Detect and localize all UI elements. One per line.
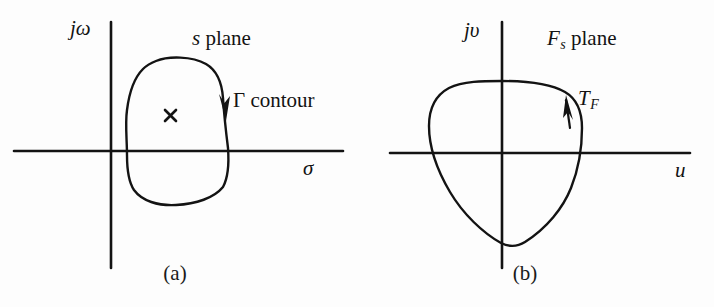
contour-label-gamma-word: contour	[250, 88, 314, 112]
caption-b: (b)	[480, 261, 570, 286]
axis-label-u: u	[675, 160, 686, 181]
panel-fs-plane: jυ Fs plane TF u (b)	[357, 0, 714, 307]
contour-label-tf-symbol: T	[578, 86, 590, 110]
axis-label-jomega: jω	[70, 18, 91, 39]
contour-label-gamma-symbol: Γ	[233, 88, 245, 112]
gamma-contour-path	[126, 58, 228, 206]
caption-a: (a)	[130, 261, 220, 286]
figure-container: jω s plane Γ contour σ (a) jυ Fs plane T…	[0, 0, 714, 307]
panel-s-plane: jω s plane Γ contour σ (a)	[0, 0, 357, 307]
plane-label-s-symbol: s	[192, 26, 200, 50]
tf-contour-path	[429, 81, 582, 246]
plane-label-fs-word: plane	[571, 26, 616, 50]
plane-label-fs-subscript: s	[560, 37, 565, 52]
contour-label-tf-subscript: F	[590, 97, 599, 112]
plane-label-s: s plane	[192, 28, 251, 49]
contour-label-tf: TF	[578, 88, 599, 112]
axis-label-jupsilon: jυ	[464, 20, 479, 41]
plane-label-fs-symbol: F	[547, 26, 560, 50]
plane-label-s-word: plane	[205, 26, 250, 50]
plane-label-fs: Fs plane	[547, 28, 617, 52]
axis-label-sigma: σ	[303, 158, 313, 179]
pole-marker-icon	[165, 110, 176, 121]
contour-label-gamma: Γ contour	[233, 90, 315, 111]
